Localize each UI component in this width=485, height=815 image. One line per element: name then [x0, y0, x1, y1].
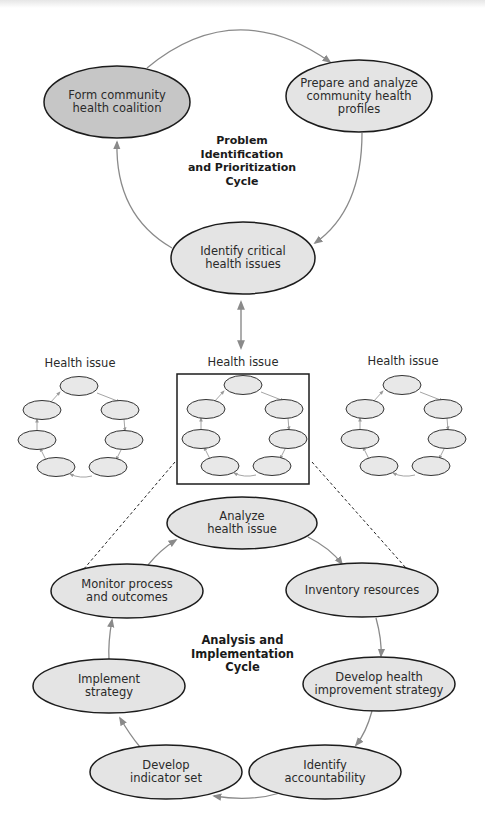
mini-cycle-center: [182, 376, 307, 477]
label-prepare-analyze-profiles: Prepare and analyzecommunity healthprofi…: [289, 73, 429, 119]
arrow-form-to-prepare: [147, 30, 330, 68]
arrow-accountability-to-indicator: [214, 793, 280, 798]
label-monitor-process-outcomes: Monitor processand outcomes: [52, 571, 202, 611]
label-identify-accountability: Identifyaccountability: [250, 752, 400, 792]
arrow-identify-to-form: [117, 142, 172, 248]
title-problem-identification-cycle: Problem Identification and Prioritizatio…: [180, 134, 304, 188]
arrow-develop-to-accountability: [356, 711, 372, 745]
mini-cycle-right: [341, 376, 466, 477]
zoom-line-right: [312, 462, 406, 568]
label-analyze-health-issue: Analyzehealth issue: [172, 503, 312, 543]
health-issue-label-left: Health issue: [25, 356, 135, 370]
arrow-monitor-to-analyze: [148, 540, 176, 565]
title-analysis-implementation-cycle: Analysis and Implementation Cycle: [185, 634, 300, 675]
label-inventory-resources: Inventory resources: [287, 580, 437, 600]
label-implement-strategy: Implementstrategy: [34, 666, 184, 706]
label-develop-health-improvement-strategy: Develop healthimprovement strategy: [304, 664, 454, 704]
arrow-prepare-to-identify: [315, 133, 362, 243]
zoom-line-left: [83, 462, 175, 570]
mini-cycle-left: [18, 377, 143, 478]
arrow-analyze-to-inventory: [308, 537, 342, 564]
label-identify-critical-health-issues: Identify criticalhealth issues: [173, 238, 313, 278]
label-develop-indicator-set: Developindicator set: [91, 752, 241, 792]
label-form-community-health-coalition: Form communityhealth coalition: [47, 82, 187, 122]
arrow-indicator-to-implement: [120, 718, 140, 747]
health-issue-label-right: Health issue: [348, 354, 458, 368]
arrow-implement-to-monitor: [109, 620, 112, 660]
health-issue-label-center: Health issue: [188, 355, 298, 369]
arrow-inventory-to-develop: [376, 618, 381, 656]
